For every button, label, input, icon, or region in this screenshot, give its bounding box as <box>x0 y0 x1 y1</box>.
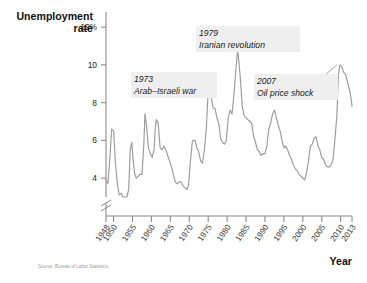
annotation-1979: 1979 Iranian revolution <box>196 26 300 52</box>
annotation-1979-year: 1979 <box>199 28 218 38</box>
chart-container: Unemployment rate 12%10864 1948195019551… <box>0 0 367 283</box>
y-axis-tick-label: 4 <box>92 173 97 183</box>
annotation-2007-year: 2007 <box>256 76 277 86</box>
source-note: Source: Bureau of Labor Statistics. <box>38 264 109 269</box>
annotation-1973-text: Arab–Israeli war <box>133 86 197 96</box>
annotation-1973: 1973 Arab–Israeli war <box>131 72 217 98</box>
x-axis-title: Year <box>330 255 352 267</box>
y-axis-title-line1: Unemployment <box>16 10 93 22</box>
annotation-2007: 2007 Oil price shock <box>254 74 338 100</box>
y-axis-tick-label: 8 <box>92 98 97 108</box>
annotation-1973-year: 1973 <box>134 74 153 84</box>
y-axis-tick-label: 6 <box>92 135 97 145</box>
annotation-2007-text: Oil price shock <box>257 88 314 98</box>
unemployment-rate-line-chart: Unemployment rate 12%10864 1948195019551… <box>0 0 367 283</box>
y-axis-tick-label: 12% <box>80 22 97 32</box>
y-axis-tick-label: 10 <box>88 60 98 70</box>
annotation-1979-text: Iranian revolution <box>199 40 265 50</box>
